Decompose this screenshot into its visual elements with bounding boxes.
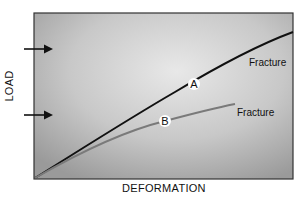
y-axis-label-text: LOAD (3, 70, 15, 101)
fracture-a-label: Fracture (249, 57, 287, 68)
x-axis-label: DEFORMATION (34, 182, 294, 194)
chart-canvas: A B Fracture Fracture (0, 0, 308, 197)
curve-b-label: B (161, 115, 168, 127)
curve-a-label: A (190, 78, 198, 90)
y-axis-label: LOAD (2, 66, 16, 106)
fracture-b-label: Fracture (237, 107, 275, 118)
load-deformation-chart: A B Fracture Fracture LOAD DEFORMATION (0, 0, 308, 197)
